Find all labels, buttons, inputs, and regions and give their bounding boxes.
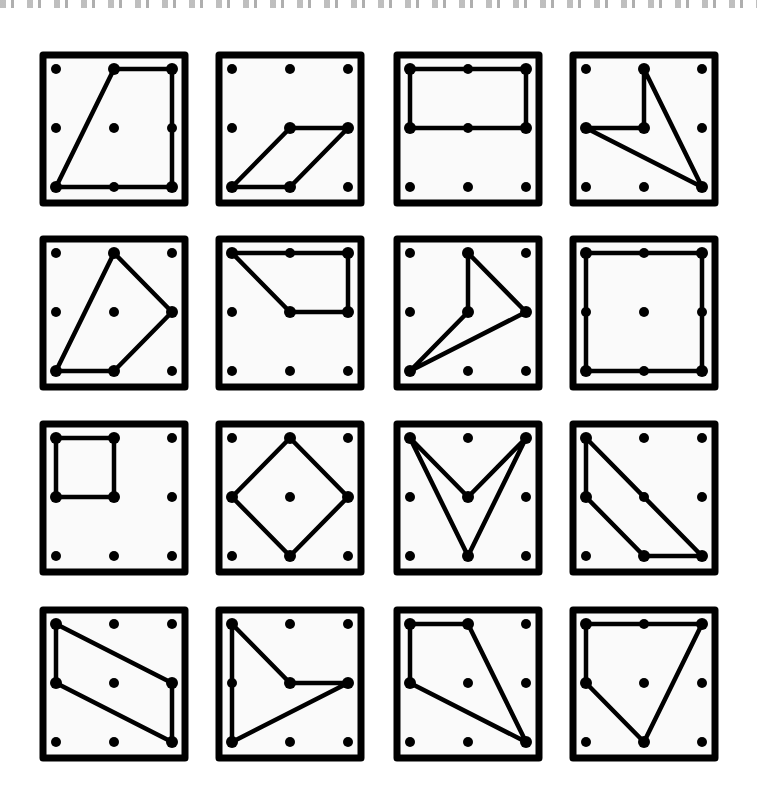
peg-dot-icon bbox=[697, 307, 707, 317]
geoboard-12 bbox=[569, 420, 719, 576]
peg-dot-icon bbox=[167, 433, 177, 443]
peg-dot-icon bbox=[697, 492, 707, 502]
geoboard-drawing bbox=[215, 235, 365, 391]
geoboard-3 bbox=[393, 51, 543, 207]
peg-dot-icon bbox=[167, 248, 177, 258]
peg-dot-icon bbox=[697, 737, 707, 747]
peg-dot-icon bbox=[404, 618, 416, 630]
peg-dot-icon bbox=[109, 619, 119, 629]
peg-dot-icon bbox=[521, 248, 531, 258]
peg-dot-icon bbox=[227, 123, 237, 133]
peg-dot-icon bbox=[50, 432, 62, 444]
peg-dot-icon bbox=[226, 736, 238, 748]
peg-dot-icon bbox=[166, 736, 178, 748]
peg-dot-icon bbox=[463, 678, 473, 688]
peg-dot-icon bbox=[342, 122, 354, 134]
peg-dot-icon bbox=[343, 737, 353, 747]
geoboard-5 bbox=[39, 235, 189, 391]
peg-dot-icon bbox=[404, 122, 416, 134]
geoboard-drawing bbox=[569, 235, 719, 391]
peg-dot-icon bbox=[463, 737, 473, 747]
peg-dot-icon bbox=[639, 492, 649, 502]
peg-dot-icon bbox=[463, 433, 473, 443]
peg-dot-icon bbox=[109, 551, 119, 561]
geoboard-drawing bbox=[39, 235, 189, 391]
geoboard-drawing bbox=[215, 420, 365, 576]
peg-dot-icon bbox=[639, 366, 649, 376]
peg-dot-icon bbox=[167, 492, 177, 502]
peg-dot-icon bbox=[284, 122, 296, 134]
peg-dot-icon bbox=[227, 366, 237, 376]
peg-dot-icon bbox=[696, 181, 708, 193]
peg-dot-icon bbox=[580, 618, 592, 630]
peg-dot-icon bbox=[638, 550, 650, 562]
geoboard-8 bbox=[569, 235, 719, 391]
peg-dot-icon bbox=[580, 677, 592, 689]
peg-dot-icon bbox=[696, 247, 708, 259]
peg-dot-icon bbox=[342, 491, 354, 503]
peg-dot-icon bbox=[109, 182, 119, 192]
peg-dot-icon bbox=[405, 551, 415, 561]
peg-dot-icon bbox=[51, 123, 61, 133]
peg-dot-icon bbox=[227, 307, 237, 317]
peg-dot-icon bbox=[521, 366, 531, 376]
peg-dot-icon bbox=[404, 365, 416, 377]
peg-dot-icon bbox=[697, 678, 707, 688]
geoboard-7 bbox=[393, 235, 543, 391]
peg-dot-icon bbox=[581, 737, 591, 747]
peg-dot-icon bbox=[521, 619, 531, 629]
peg-dot-icon bbox=[285, 64, 295, 74]
peg-dot-icon bbox=[166, 63, 178, 75]
peg-dot-icon bbox=[343, 366, 353, 376]
peg-dot-icon bbox=[405, 182, 415, 192]
peg-dot-icon bbox=[108, 491, 120, 503]
peg-dot-icon bbox=[343, 619, 353, 629]
peg-dot-icon bbox=[166, 306, 178, 318]
peg-dot-icon bbox=[520, 306, 532, 318]
peg-dot-icon bbox=[639, 307, 649, 317]
peg-dot-icon bbox=[285, 492, 295, 502]
peg-dot-icon bbox=[166, 677, 178, 689]
peg-dot-icon bbox=[404, 677, 416, 689]
geoboard-16 bbox=[569, 606, 719, 762]
peg-dot-icon bbox=[343, 551, 353, 561]
geoboard-1 bbox=[39, 51, 189, 207]
peg-dot-icon bbox=[226, 247, 238, 259]
peg-dot-icon bbox=[227, 64, 237, 74]
peg-dot-icon bbox=[520, 63, 532, 75]
peg-dot-icon bbox=[638, 63, 650, 75]
geoboard-drawing bbox=[215, 606, 365, 762]
peg-dot-icon bbox=[639, 433, 649, 443]
geoboard-drawing bbox=[569, 51, 719, 207]
peg-dot-icon bbox=[638, 122, 650, 134]
geoboard-11 bbox=[393, 420, 543, 576]
peg-dot-icon bbox=[342, 677, 354, 689]
peg-dot-icon bbox=[521, 678, 531, 688]
geoboard-drawing bbox=[393, 235, 543, 391]
peg-dot-icon bbox=[343, 64, 353, 74]
peg-dot-icon bbox=[520, 432, 532, 444]
geoboard-9 bbox=[39, 420, 189, 576]
peg-dot-icon bbox=[463, 366, 473, 376]
peg-dot-icon bbox=[166, 181, 178, 193]
peg-dot-icon bbox=[697, 64, 707, 74]
peg-dot-icon bbox=[639, 248, 649, 258]
geoboard-drawing bbox=[39, 51, 189, 207]
peg-dot-icon bbox=[405, 492, 415, 502]
peg-dot-icon bbox=[343, 433, 353, 443]
peg-dot-icon bbox=[580, 247, 592, 259]
peg-dot-icon bbox=[581, 551, 591, 561]
peg-dot-icon bbox=[50, 491, 62, 503]
peg-dot-icon bbox=[462, 247, 474, 259]
peg-dot-icon bbox=[521, 492, 531, 502]
peg-dot-icon bbox=[227, 678, 237, 688]
peg-dot-icon bbox=[108, 247, 120, 259]
geoboard-grid bbox=[0, 0, 757, 799]
geoboard-drawing bbox=[569, 606, 719, 762]
geoboard-drawing bbox=[39, 420, 189, 576]
peg-dot-icon bbox=[109, 737, 119, 747]
peg-dot-icon bbox=[521, 551, 531, 561]
peg-dot-icon bbox=[50, 181, 62, 193]
peg-dot-icon bbox=[696, 365, 708, 377]
peg-dot-icon bbox=[462, 306, 474, 318]
